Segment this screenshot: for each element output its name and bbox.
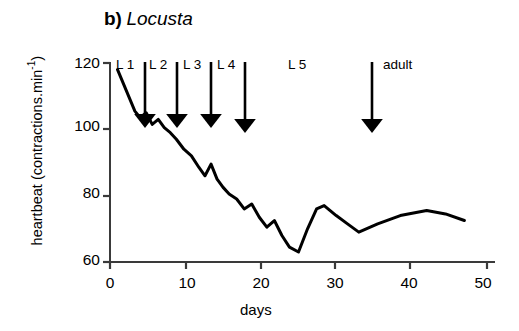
moult-arrows <box>145 62 372 122</box>
plot-svg <box>0 0 519 331</box>
axis-lines <box>110 63 494 262</box>
axis-ticks <box>103 63 487 269</box>
data-series-line <box>118 70 465 252</box>
figure-panel: heartbeat (contractions.min-1) b) Locust… <box>0 0 519 331</box>
